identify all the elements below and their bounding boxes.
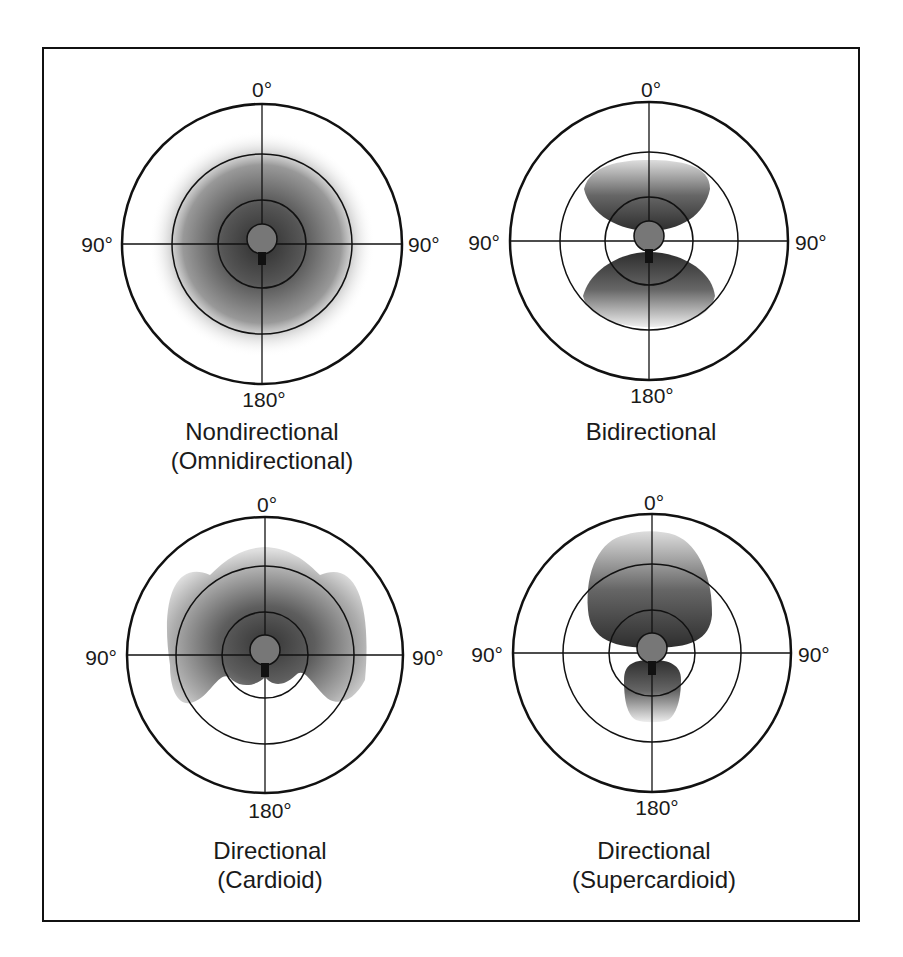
panel-omnidirectional: 0° 90° 90° 180° Nondirectional (Omnidire… [81,78,440,474]
label-0-deg: 0° [644,491,664,514]
microphone-head-icon [250,635,280,665]
label-0-deg: 0° [252,78,272,101]
microphone-handle-icon [258,252,266,265]
label-180-deg: 180° [630,384,673,407]
label-90-left: 90° [468,231,500,254]
pickup-lobe-front [588,531,712,648]
microphone-head-icon [637,633,667,663]
label-90-right: 90° [798,643,830,666]
microphone-head-icon [634,221,664,251]
label-90-left: 90° [471,643,503,666]
microphone-head-icon [247,224,277,254]
label-90-right: 90° [408,233,440,256]
microphone-handle-icon [645,249,653,263]
label-90-left: 90° [81,233,113,256]
caption-line1: Directional [597,837,710,864]
panel-cardioid: 0° 90° 90° 180° Directional (Cardioid) [85,493,444,893]
caption-line1: Bidirectional [586,418,717,445]
label-180-deg: 180° [635,796,678,819]
label-90-right: 90° [412,646,444,669]
pickup-lobe-front [584,160,710,231]
label-90-left: 90° [85,646,117,669]
caption-line2: (Supercardioid) [572,866,736,893]
label-180-deg: 180° [248,799,291,822]
panel-bidirectional: 0° 90° 90° 180° Bidirectional [468,78,827,445]
label-0-deg: 0° [257,493,277,516]
caption-line2: (Omnidirectional) [171,447,354,474]
label-180-deg: 180° [242,388,285,411]
caption-line1: Directional [213,837,326,864]
microphone-handle-icon [648,661,656,675]
panel-supercardioid: 0° 90° 90° 180° Directional (Supercardio… [471,491,830,893]
polar-pattern-diagram: 0° 90° 90° 180° Nondirectional (Omnidire… [0,0,903,957]
caption-line1: Nondirectional [185,418,338,445]
caption-line2: (Cardioid) [217,866,322,893]
pickup-pattern-cardioid [167,547,367,703]
label-0-deg: 0° [641,78,661,101]
label-90-right: 90° [795,231,827,254]
microphone-handle-icon [261,663,269,677]
